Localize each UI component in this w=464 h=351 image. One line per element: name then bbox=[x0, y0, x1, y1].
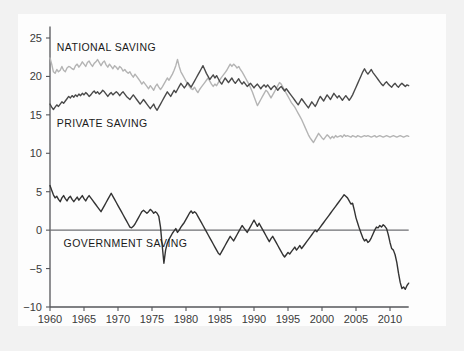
x-tick-label: 1960 bbox=[38, 313, 62, 325]
top-margin-fill bbox=[0, 0, 464, 14]
saving-rates-line-chart: −10−505101520251960196519701975198019851… bbox=[0, 0, 464, 351]
annotation-layer: NATIONAL SAVINGPRIVATE SAVINGGOVERNMENT … bbox=[57, 41, 187, 249]
y-tick-label: −5 bbox=[29, 263, 42, 275]
y-tick-label: 0 bbox=[36, 224, 42, 236]
x-tick-label: 2005 bbox=[344, 313, 368, 325]
national-saving-label: NATIONAL SAVING bbox=[57, 41, 156, 53]
series-line-national-saving bbox=[50, 58, 409, 143]
x-tick-label: 1975 bbox=[140, 313, 164, 325]
chart-plot-area: −10−505101520251960196519701975198019851… bbox=[0, 0, 464, 351]
government-saving-label: GOVERNMENT SAVING bbox=[64, 237, 188, 249]
x-tick-label: 1970 bbox=[106, 313, 130, 325]
y-tick-label: −10 bbox=[23, 301, 42, 313]
y-tick-label: 5 bbox=[36, 186, 42, 198]
x-tick-label: 1980 bbox=[174, 313, 198, 325]
series-line-private-saving bbox=[50, 66, 409, 111]
y-tick-label: 20 bbox=[30, 70, 42, 82]
x-tick-label: 1995 bbox=[276, 313, 300, 325]
x-tick-label: 1990 bbox=[242, 313, 266, 325]
chart-figure: −10−505101520251960196519701975198019851… bbox=[0, 0, 464, 351]
series-layer bbox=[50, 58, 409, 289]
x-tick-label: 1965 bbox=[72, 313, 96, 325]
x-tick-label: 2000 bbox=[310, 313, 334, 325]
y-tick-label: 10 bbox=[30, 147, 42, 159]
x-tick-label: 2010 bbox=[378, 313, 402, 325]
x-tick-label: 1985 bbox=[208, 313, 232, 325]
private-saving-label: PRIVATE SAVING bbox=[57, 117, 148, 129]
y-tick-label: 25 bbox=[30, 32, 42, 44]
y-tick-label: 15 bbox=[30, 109, 42, 121]
